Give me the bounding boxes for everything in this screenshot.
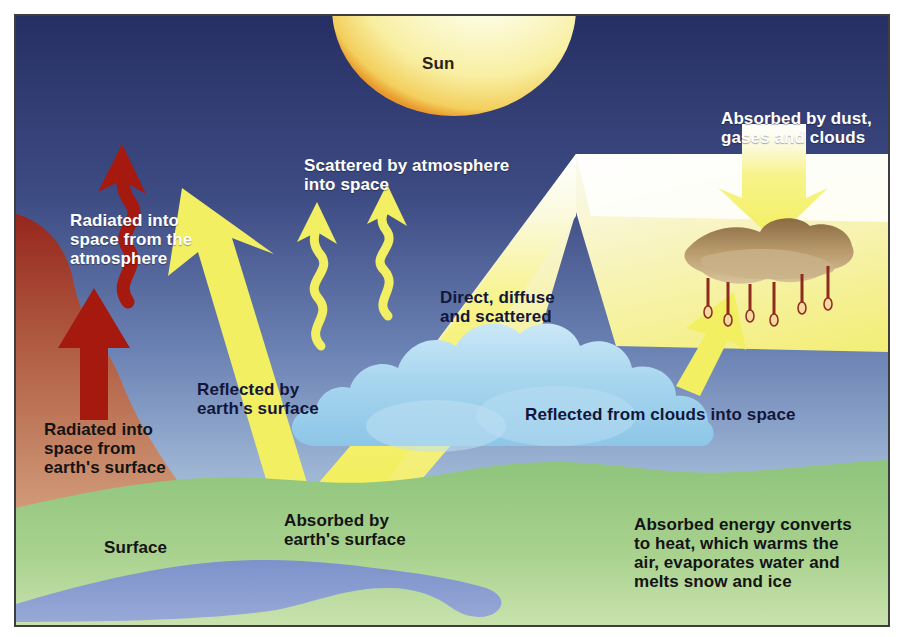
label-radiated-from-surface: Radiated into space from earth's surface [44,420,166,477]
label-absorbed-by-surface: Absorbed by earth's surface [284,511,406,549]
label-radiated-from-atmosphere: Radiated into space from the atmosphere [70,211,192,268]
label-reflected-from-clouds: Reflected from clouds into space [525,405,796,424]
label-scattered-by-atmosphere: Scattered by atmosphere into space [304,156,509,194]
top-caption [0,0,900,9]
label-absorbed-by-dust: Absorbed by dust, gases and clouds [721,109,872,147]
diagram-stage: Sun Absorbed by dust, gases and clouds S… [0,0,900,637]
diagram-frame: Sun Absorbed by dust, gases and clouds S… [14,14,890,627]
label-surface: Surface [104,538,167,557]
label-absorbed-energy-converts: Absorbed energy converts to heat, which … [634,515,852,591]
label-direct-diffuse-scattered: Direct, diffuse and scattered [440,288,555,326]
label-sun: Sun [422,54,454,73]
label-reflected-by-surface: Reflected by earth's surface [197,380,319,418]
